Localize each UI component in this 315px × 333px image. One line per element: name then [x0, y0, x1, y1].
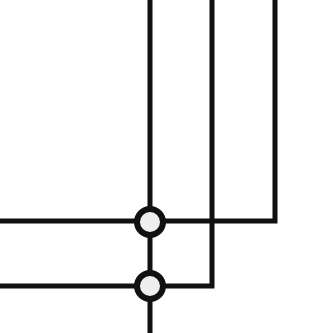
wire-junction-diagram — [0, 0, 315, 333]
wire-vertical-right-to-upper-horizontal — [0, 0, 275, 221]
wire-vertical-middle-to-lower-horizontal — [0, 0, 212, 286]
junction-lower-node — [137, 273, 163, 299]
junction-upper-node — [137, 209, 163, 235]
